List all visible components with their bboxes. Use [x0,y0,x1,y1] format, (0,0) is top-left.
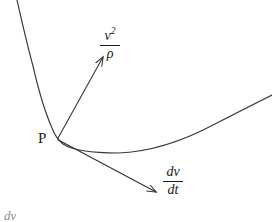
fraction-dv-over-dt: dv dt [163,165,183,197]
fraction-denominator-rho: ρ [104,46,117,62]
exponent-2: 2 [111,26,116,36]
diagram-svg [0,0,272,222]
figure-canvas: P v2 ρ dv dt dv [0,0,272,222]
fraction-denominator-dt: dt [165,182,182,198]
fraction-numerator: v2 [102,29,119,45]
cutoff-text-fragment: dv [4,209,16,222]
tangential-acceleration-label: dv dt [163,163,183,197]
trajectory-curve [17,0,272,153]
point-p-label: P [38,131,46,146]
tangential-acceleration-arrow [58,140,157,193]
fraction-v-squared-over-rho: v2 ρ [100,29,120,61]
normal-acceleration-label: v2 ρ [100,27,120,61]
normal-acceleration-arrow [58,57,104,139]
fraction-numerator-dv: dv [163,165,182,181]
